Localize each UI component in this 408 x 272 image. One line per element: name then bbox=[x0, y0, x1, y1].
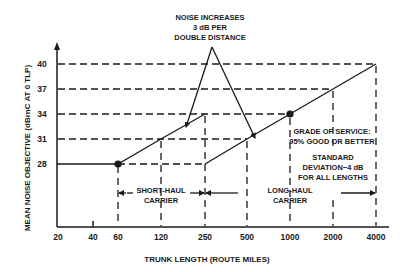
svg-text:40: 40 bbox=[37, 59, 47, 69]
svg-text:40: 40 bbox=[88, 232, 98, 242]
y-tick-labels: 40 37 34 31 28 bbox=[37, 59, 47, 169]
svg-text:4000: 4000 bbox=[367, 232, 386, 242]
svg-text:STANDARD: STANDARD bbox=[312, 153, 354, 162]
grade-of-service-annotation: GRADE OF SERVICE: 95% GOOD OR BETTER bbox=[289, 127, 375, 146]
short-haul-label: SHORT-HAUL CARRIER bbox=[136, 186, 186, 205]
svg-text:CARRIER: CARRIER bbox=[144, 196, 179, 205]
svg-text:60: 60 bbox=[113, 232, 123, 242]
svg-text:95% GOOD OR BETTER: 95% GOOD OR BETTER bbox=[289, 137, 375, 146]
svg-text:SHORT-HAUL: SHORT-HAUL bbox=[136, 186, 186, 195]
x-tick-labels: 20 40 60 120 250 500 1000 2000 4000 bbox=[53, 232, 385, 242]
svg-text:DOUBLE DISTANCE: DOUBLE DISTANCE bbox=[174, 33, 246, 42]
svg-text:LONG-HAUL: LONG-HAUL bbox=[268, 186, 313, 195]
svg-text:NOISE INCREASES: NOISE INCREASES bbox=[175, 13, 244, 22]
svg-text:DEVIATION−4 dB: DEVIATION−4 dB bbox=[303, 163, 364, 172]
svg-text:20: 20 bbox=[53, 232, 63, 242]
svg-text:250: 250 bbox=[198, 232, 212, 242]
slope-annotation-arrows bbox=[186, 47, 255, 138]
svg-text:1000: 1000 bbox=[281, 232, 300, 242]
x-axis-title: TRUNK LENGTH (ROUTE MILES) bbox=[144, 255, 270, 264]
y-axis-arrow-icon bbox=[54, 42, 60, 50]
slope-annotation: NOISE INCREASES 3 dB PER DOUBLE DISTANCE bbox=[174, 13, 246, 42]
long-haul-label: LONG-HAUL CARRIER bbox=[268, 186, 313, 205]
svg-text:2000: 2000 bbox=[324, 232, 343, 242]
marker-60-28 bbox=[114, 160, 121, 167]
svg-text:GRADE OF SERVICE:: GRADE OF SERVICE: bbox=[294, 127, 371, 136]
y-axis-title: MEAN NOISE OBJECTIVE (dBrnC AT 0 TLP) bbox=[23, 65, 32, 232]
svg-text:37: 37 bbox=[37, 84, 47, 94]
svg-text:CARRIER: CARRIER bbox=[273, 196, 308, 205]
svg-text:120: 120 bbox=[154, 232, 168, 242]
svg-text:31: 31 bbox=[37, 134, 47, 144]
svg-text:28: 28 bbox=[37, 159, 47, 169]
marker-1000-34 bbox=[286, 110, 293, 117]
noise-objective-chart: 40 37 34 31 28 20 40 60 120 250 500 1000… bbox=[0, 0, 408, 272]
standard-deviation-annotation: STANDARD DEVIATION−4 dB FOR ALL LENGTHS bbox=[298, 153, 368, 182]
svg-text:FOR ALL LENGTHS: FOR ALL LENGTHS bbox=[298, 173, 368, 182]
svg-text:3 dB PER: 3 dB PER bbox=[193, 23, 227, 32]
short-haul-series bbox=[57, 114, 205, 168]
svg-text:34: 34 bbox=[37, 109, 47, 119]
svg-text:500: 500 bbox=[240, 232, 254, 242]
horizontal-reference-lines bbox=[58, 64, 376, 164]
